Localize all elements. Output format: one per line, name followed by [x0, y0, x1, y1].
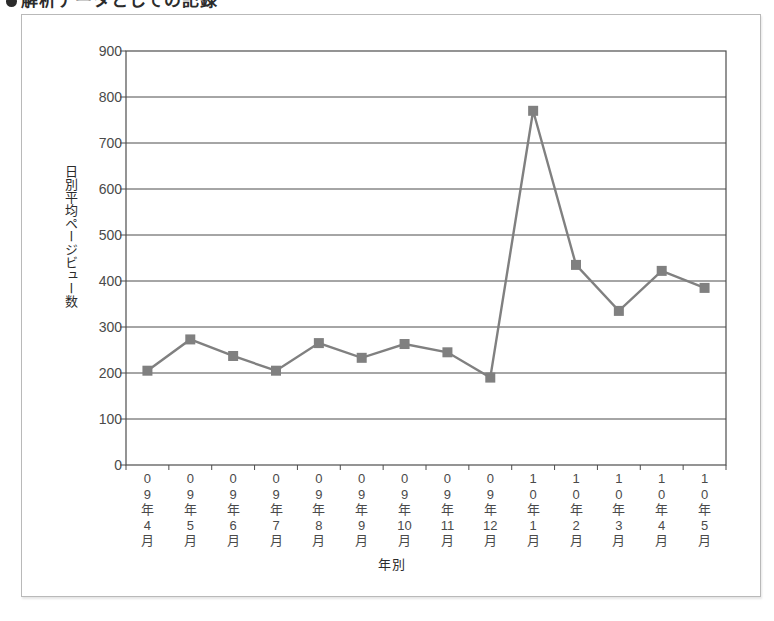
x-tick-label-char: 1 [606, 471, 632, 487]
x-tick-label-char: 0 [220, 471, 246, 487]
x-tick-label: 09年7月 [263, 471, 289, 549]
x-tick-label-char: 年 [220, 502, 246, 518]
x-tick-label-char: 月 [220, 533, 246, 549]
x-tick-label-char: 0 [349, 471, 375, 487]
bullet-dot-icon [6, 0, 17, 7]
x-tick-label-char: 11 [434, 518, 460, 534]
x-tick-label-char: 9 [263, 487, 289, 503]
x-tick-label-char: 月 [520, 533, 546, 549]
x-tick-label-char: 0 [134, 471, 160, 487]
x-tick-label: 09年6月 [220, 471, 246, 549]
x-tick-label-char: 月 [434, 533, 460, 549]
x-tick-label-char: 0 [520, 487, 546, 503]
x-tick-label-char: 6 [220, 518, 246, 534]
x-tick-label-char: 2 [563, 518, 589, 534]
x-tick-label-char: 1 [563, 471, 589, 487]
x-tick-label-char: 9 [349, 518, 375, 534]
x-tick-label-char: 年 [306, 502, 332, 518]
x-tick-label-char: 9 [306, 487, 332, 503]
x-tick-label-char: 0 [177, 471, 203, 487]
page-heading-clipped: 解析データとしての記録 [0, 0, 774, 11]
x-tick-label-char: 0 [563, 487, 589, 503]
x-tick-label-char: 0 [477, 471, 503, 487]
figure-frame: 日別平均ページビュー数 9008007006005004003002001000… [21, 14, 761, 597]
line-chart: 日別平均ページビュー数 9008007006005004003002001000… [22, 15, 762, 598]
x-tick-label: 10年4月 [649, 471, 675, 549]
x-tick-label-char: 5 [692, 518, 718, 534]
x-tick-label-char: 3 [606, 518, 632, 534]
x-tick-label: 09年12月 [477, 471, 503, 549]
x-tick-label-char: 4 [134, 518, 160, 534]
x-tick-label-char: 0 [649, 487, 675, 503]
x-tick-label-char: 年 [520, 502, 546, 518]
x-tick-label: 09年9月 [349, 471, 375, 549]
x-tick-label: 10年1月 [520, 471, 546, 549]
x-tick-label-char: 1 [649, 471, 675, 487]
x-axis-title: 年別 [22, 554, 762, 573]
x-tick-label-char: 月 [649, 533, 675, 549]
x-tick-label-char: 年 [349, 502, 375, 518]
x-tick-label: 09年8月 [306, 471, 332, 549]
x-tick-label: 09年5月 [177, 471, 203, 549]
x-tick-label-char: 10 [392, 518, 418, 534]
x-tick-label-char: 12 [477, 518, 503, 534]
x-tick-label-char: 月 [477, 533, 503, 549]
x-tick-label-char: 月 [392, 533, 418, 549]
x-tick-label-char: 月 [563, 533, 589, 549]
x-tick-label-char: 1 [520, 518, 546, 534]
page-heading-label: 解析データとしての記録 [21, 0, 218, 10]
x-tick-label-char: 月 [177, 533, 203, 549]
x-tick-label: 09年11月 [434, 471, 460, 549]
x-tick-label-char: 0 [692, 487, 718, 503]
x-tick-label-char: 年 [563, 502, 589, 518]
x-tick-label-char: 9 [392, 487, 418, 503]
x-tick-label-char: 月 [263, 533, 289, 549]
x-tick-label-char: 年 [134, 502, 160, 518]
x-tick-label-char: 年 [392, 502, 418, 518]
x-tick-label-char: 年 [177, 502, 203, 518]
x-tick-label-char: 4 [649, 518, 675, 534]
x-tick-label: 09年4月 [134, 471, 160, 549]
x-tick-label-char: 年 [434, 502, 460, 518]
x-tick-label-char: 月 [606, 533, 632, 549]
x-tick-label-char: 年 [477, 502, 503, 518]
x-tick-label-char: 1 [692, 471, 718, 487]
x-tick-label-char: 0 [434, 471, 460, 487]
x-axis-tick-labels: 09年4月09年5月09年6月09年7月09年8月09年9月09年10月09年1… [22, 15, 762, 598]
x-tick-label-char: 月 [134, 533, 160, 549]
x-tick-label-char: 0 [606, 487, 632, 503]
x-tick-label-char: 年 [263, 502, 289, 518]
x-tick-label-char: 9 [177, 487, 203, 503]
x-tick-label-char: 9 [134, 487, 160, 503]
x-tick-label-char: 0 [263, 471, 289, 487]
x-tick-label: 10年3月 [606, 471, 632, 549]
x-tick-label-char: 7 [263, 518, 289, 534]
x-tick-label-char: 9 [349, 487, 375, 503]
x-tick-label-char: 月 [349, 533, 375, 549]
x-tick-label-char: 月 [306, 533, 332, 549]
x-tick-label-char: 9 [434, 487, 460, 503]
x-tick-label-char: 5 [177, 518, 203, 534]
page-heading-text: 解析データとしての記録 [6, 0, 218, 11]
x-tick-label-char: 年 [649, 502, 675, 518]
x-tick-label: 09年10月 [392, 471, 418, 549]
x-tick-label-char: 9 [220, 487, 246, 503]
x-tick-label-char: 0 [392, 471, 418, 487]
x-tick-label: 10年5月 [692, 471, 718, 549]
x-tick-label-char: 年 [606, 502, 632, 518]
x-tick-label-char: 1 [520, 471, 546, 487]
x-tick-label-char: 年 [692, 502, 718, 518]
x-tick-label-char: 9 [477, 487, 503, 503]
x-tick-label-char: 8 [306, 518, 332, 534]
x-tick-label: 10年2月 [563, 471, 589, 549]
x-tick-label-char: 0 [306, 471, 332, 487]
x-tick-label-char: 月 [692, 533, 718, 549]
